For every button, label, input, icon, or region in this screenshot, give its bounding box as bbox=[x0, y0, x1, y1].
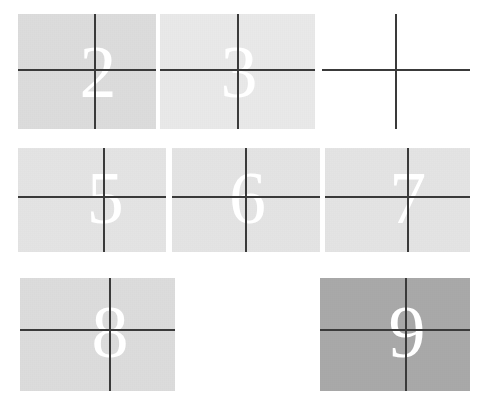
cell-numeral: 7 bbox=[389, 161, 426, 235]
gray-swatch bbox=[186, 278, 326, 391]
grid-cell-8: 8 bbox=[20, 278, 175, 391]
cell-numeral: 3 bbox=[221, 35, 258, 109]
cell-numeral: 2 bbox=[80, 35, 117, 109]
grid-cell-5: 5 bbox=[18, 148, 166, 252]
cell-numeral: 5 bbox=[87, 161, 124, 235]
cell-numeral: 8 bbox=[91, 295, 128, 369]
cell-numeral: 6 bbox=[229, 161, 266, 235]
grid-cell-3: 3 bbox=[160, 14, 315, 129]
grid-cell-2: 2 bbox=[18, 14, 156, 129]
grid-cell-7: 7 bbox=[325, 148, 470, 252]
figure-canvas: 23456789 bbox=[0, 0, 486, 407]
cell-numeral: 4 bbox=[379, 35, 416, 109]
cell-numeral: 9 bbox=[389, 295, 426, 369]
grid-cell-9: 9 bbox=[320, 278, 470, 391]
grid-cell-4: 4 bbox=[322, 14, 470, 129]
grid-cell-6: 6 bbox=[172, 148, 320, 252]
grid-cell-empty bbox=[186, 278, 326, 391]
